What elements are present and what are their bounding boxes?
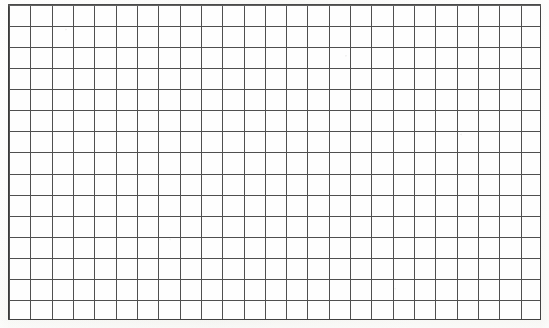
graph-paper-grid <box>8 4 541 320</box>
grid-border-top <box>8 4 541 5</box>
grid-border-left <box>8 4 9 320</box>
grid-border-right <box>540 4 541 320</box>
graph-paper-page <box>0 0 549 328</box>
grid-border-bottom <box>8 319 541 320</box>
